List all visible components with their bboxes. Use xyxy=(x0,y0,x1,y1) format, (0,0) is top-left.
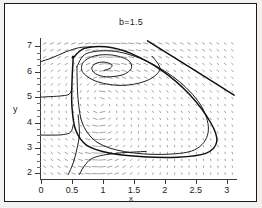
vector-field-dash xyxy=(232,152,233,154)
vector-field-dash xyxy=(195,77,197,79)
vector-field-dash xyxy=(44,84,45,86)
vector-field-dash xyxy=(167,97,168,99)
vector-field-dash xyxy=(87,118,89,120)
vector-field-dash xyxy=(144,70,147,71)
y-tick xyxy=(35,173,41,174)
vector-field-dash xyxy=(65,63,67,64)
vector-field-dash xyxy=(218,132,219,134)
vector-field-dash xyxy=(44,132,45,134)
vector-field-dash xyxy=(58,77,60,79)
vector-field-dash xyxy=(210,139,211,141)
vector-field-dash xyxy=(203,97,204,99)
vector-field-dash xyxy=(93,57,98,58)
vector-field-dash xyxy=(65,43,69,44)
vector-field-dash xyxy=(130,97,132,99)
vector-field-dash xyxy=(225,118,226,120)
vector-field-dash xyxy=(52,97,53,99)
vector-field-dash xyxy=(210,50,212,52)
vector-field-dash xyxy=(181,118,182,120)
vector-field-dash xyxy=(51,70,53,72)
vector-field-dash xyxy=(159,63,162,64)
x-tick xyxy=(134,179,135,184)
vector-field-dash xyxy=(65,173,68,174)
vector-field-dash xyxy=(167,91,169,93)
vector-field-dash xyxy=(59,132,60,134)
vector-field-dash xyxy=(79,146,82,147)
vector-field-dash xyxy=(159,56,162,57)
vector-field-dash xyxy=(210,125,211,127)
vector-field-dash xyxy=(217,50,219,52)
vector-field-dash xyxy=(195,50,197,52)
y-tick-label: 3 xyxy=(18,143,32,152)
vector-field-dash xyxy=(43,50,46,52)
vector-field-dash xyxy=(159,77,161,79)
vector-field-dash xyxy=(87,84,89,86)
y-minor-tick xyxy=(37,161,41,162)
vector-field-dash xyxy=(232,50,234,52)
vector-field-dash xyxy=(182,132,183,134)
y-tick-label: 4 xyxy=(18,118,32,127)
vector-field-dash xyxy=(232,104,233,106)
vector-field-dash xyxy=(181,104,182,106)
vector-field-dash xyxy=(58,152,60,154)
vector-field-dash xyxy=(224,63,226,65)
vector-field-dash xyxy=(210,56,212,58)
vector-field-dash xyxy=(144,57,148,58)
vector-field-dash xyxy=(224,43,226,45)
figure-container: b=1.5 234567 00.511.522.53 y x xyxy=(0,0,262,208)
vector-field-dash xyxy=(232,118,233,120)
vector-field-dash xyxy=(93,70,97,71)
vector-field-dash xyxy=(72,173,76,174)
y-minor-tick xyxy=(37,65,41,66)
vector-field-dash xyxy=(224,56,226,58)
vector-field-dash xyxy=(188,77,190,79)
vector-field-dash xyxy=(78,173,83,174)
vector-field-dash xyxy=(51,77,52,79)
vector-field-dash xyxy=(218,139,219,141)
vector-field-dash xyxy=(202,43,204,45)
vector-field-dash xyxy=(137,77,140,78)
vector-field-dash xyxy=(50,43,53,44)
x-tick xyxy=(227,179,228,184)
vector-field-dash xyxy=(107,173,112,174)
vector-field-dash xyxy=(116,104,117,106)
vector-field-dash xyxy=(195,56,197,58)
vector-field-dash xyxy=(109,118,111,120)
vector-field-dash xyxy=(93,118,97,119)
vector-field-dash xyxy=(58,159,60,161)
vector-field-dash xyxy=(153,173,154,175)
vector-field-dash xyxy=(88,104,89,106)
vector-field-dash xyxy=(58,63,60,64)
vector-field-dash xyxy=(79,159,83,160)
vector-field-dash xyxy=(65,166,68,167)
vector-field-dash xyxy=(232,56,234,58)
vector-field-dash xyxy=(145,104,146,106)
vector-field-dash xyxy=(203,139,204,141)
vector-field-dash xyxy=(217,91,218,93)
vector-field-dash xyxy=(86,63,90,64)
vector-field-dash xyxy=(116,91,118,93)
vector-field-dash xyxy=(80,125,82,127)
vector-field-dash xyxy=(196,125,197,127)
vector-field-dash xyxy=(51,84,52,86)
vector-field-dash xyxy=(65,139,67,141)
vector-field-dash xyxy=(99,57,105,58)
vector-field-dash xyxy=(99,91,105,92)
vector-field-dash xyxy=(136,50,141,51)
vector-field-dash xyxy=(203,56,205,58)
vector-field-dash xyxy=(80,77,82,79)
vector-field-dash xyxy=(43,43,46,45)
vector-field-dash xyxy=(86,125,89,126)
trajectory-incoming-left-mid xyxy=(41,88,72,97)
vector-field-dash xyxy=(44,77,45,79)
vector-field-dash xyxy=(65,159,68,161)
vector-field-dash xyxy=(145,118,146,120)
vector-field-dash xyxy=(181,70,183,72)
vector-field-dash xyxy=(115,173,119,174)
vector-field-dash xyxy=(144,43,148,44)
vector-field-dash xyxy=(130,173,132,175)
vector-field-dash xyxy=(181,56,183,58)
vector-field-dash xyxy=(160,173,161,175)
vector-field-dash xyxy=(52,125,53,127)
vector-field-dash xyxy=(108,139,112,140)
